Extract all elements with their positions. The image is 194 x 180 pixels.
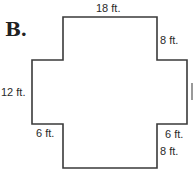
label-bottom-left-step: 6 ft. [36,128,54,139]
label-left-height: 12 ft. [1,87,25,98]
label-bottom-right-step: 6 ft. [165,129,183,140]
problem-letter: B. [5,20,27,39]
clipped-label-fragment [191,83,193,100]
label-bottom-right-height: 8 ft. [160,146,178,157]
label-top-width: 18 ft. [96,3,120,14]
label-top-right-height: 8 ft. [160,35,178,46]
